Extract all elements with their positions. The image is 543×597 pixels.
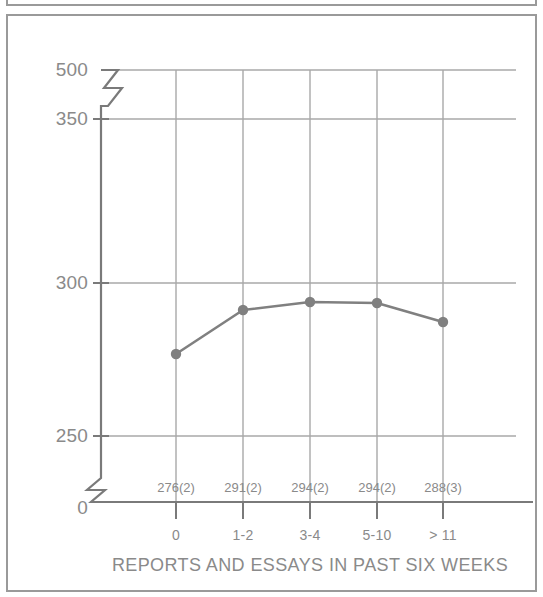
x-tick-label-gt-11: > 11 <box>429 527 456 543</box>
y-axis-break-lower-icon <box>87 471 105 502</box>
y-tick-label-0: 0 <box>22 497 88 519</box>
y-tick-label-300: 300 <box>22 272 88 294</box>
data-label-2: 294(2) <box>291 480 329 495</box>
top-partial-frame <box>6 0 537 6</box>
x-tick-label-5-10: 5-10 <box>363 527 392 543</box>
x-axis-title: REPORTS AND ESSAYS IN PAST SIX WEEKS <box>112 555 508 576</box>
x-tick-label-1-2: 1-2 <box>233 527 254 543</box>
x-axis-ticks <box>176 502 443 519</box>
data-label-3: 294(2) <box>358 480 396 495</box>
data-label-1: 291(2) <box>224 480 262 495</box>
data-label-4: 288(3) <box>424 480 462 495</box>
y-tick-label-250: 250 <box>22 425 88 447</box>
x-tick-label-0: 0 <box>172 527 180 543</box>
chart-frame: 500 350 300 250 0 276(2) 291(2) 294(2) 2… <box>6 14 537 592</box>
data-label-0: 276(2) <box>157 480 195 495</box>
data-point-marker <box>438 317 448 327</box>
y-axis-break-upper-icon <box>101 70 122 113</box>
data-point-marker <box>305 297 315 307</box>
data-point-marker <box>171 349 181 359</box>
y-tick-label-500: 500 <box>22 59 88 81</box>
data-point-marker <box>238 305 248 315</box>
x-tick-label-3-4: 3-4 <box>300 527 321 543</box>
y-tick-label-350: 350 <box>22 108 88 130</box>
horizontal-gridlines <box>101 70 516 436</box>
vertical-gridlines <box>176 70 443 502</box>
data-point-marker <box>372 298 382 308</box>
